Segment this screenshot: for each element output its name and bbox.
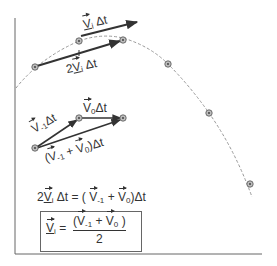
trajectory-points xyxy=(32,37,253,187)
equation-2-lhs: Vi = xyxy=(46,222,66,236)
fraction-denominator: 2 xyxy=(73,232,126,246)
equation-2-fraction: (V-1 + V0 ) 2 xyxy=(73,214,126,246)
label-v0-dt: V0Δt xyxy=(83,102,107,116)
equation-1: 2Vi Δt = ( V-1 + V0)Δt xyxy=(37,191,146,205)
fraction-bar xyxy=(73,230,126,231)
fraction-numerator: (V-1 + V0 ) xyxy=(73,214,126,229)
